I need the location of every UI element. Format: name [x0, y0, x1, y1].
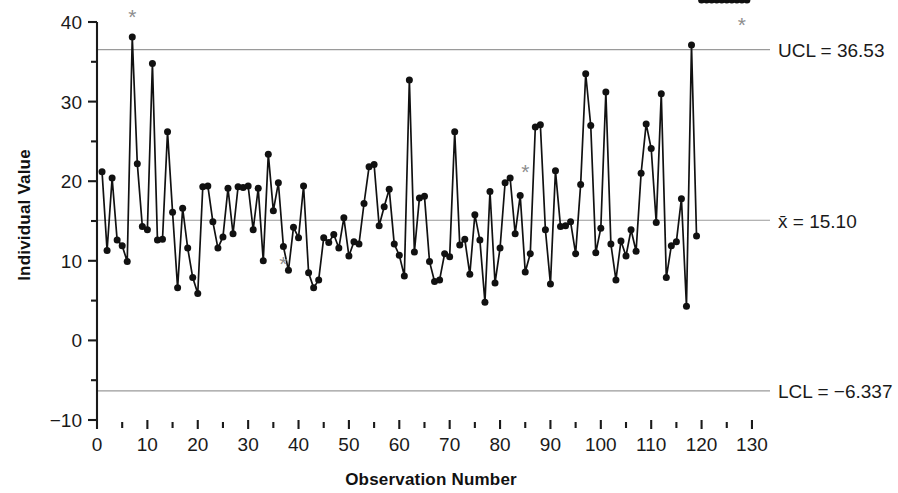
data-point — [446, 253, 453, 260]
x-tick-label: 120 — [686, 434, 718, 455]
data-point — [149, 60, 156, 67]
violation-asterisk: * — [279, 252, 287, 275]
data-point — [159, 236, 166, 243]
data-point — [492, 280, 499, 287]
data-point — [567, 218, 574, 225]
data-point — [290, 224, 297, 231]
data-point — [683, 303, 690, 310]
data-point — [179, 205, 186, 212]
data-point — [295, 234, 302, 241]
data-point — [325, 239, 332, 246]
x-tick-label: 90 — [540, 434, 561, 455]
data-point — [673, 238, 680, 245]
control-chart: 0102030405060708090100110120130 −1001020… — [0, 0, 898, 493]
x-tick-label: 130 — [736, 434, 768, 455]
data-point — [255, 185, 262, 192]
data-point — [214, 245, 221, 252]
lcl-label: LCL = −6.337 — [778, 381, 892, 402]
data-point — [577, 181, 584, 188]
data-point — [643, 120, 650, 127]
data-point — [260, 257, 267, 264]
data-point — [602, 89, 609, 96]
data-point — [401, 272, 408, 279]
data-point — [124, 258, 131, 265]
data-point — [371, 161, 378, 168]
x-axis-tick-labels: 0102030405060708090100110120130 — [92, 434, 768, 455]
data-point — [386, 186, 393, 193]
data-point — [527, 250, 534, 257]
violation-asterisk: * — [738, 13, 746, 36]
data-point — [693, 233, 700, 240]
data-point — [497, 245, 504, 252]
control-limit-labels: UCL = 36.53 x̄ = 15.10 LCL = −6.337 — [778, 40, 892, 402]
x-tick-label: 60 — [389, 434, 410, 455]
data-point — [134, 160, 141, 167]
y-tick-label: −10 — [50, 410, 82, 431]
data-point — [224, 185, 231, 192]
data-point — [466, 271, 473, 278]
data-point — [315, 276, 322, 283]
data-point — [381, 203, 388, 210]
data-point — [537, 121, 544, 128]
data-point — [471, 211, 478, 218]
data-point — [169, 209, 176, 216]
data-point — [658, 90, 665, 97]
violation-asterisk: * — [521, 160, 529, 183]
x-tick-label: 20 — [187, 434, 208, 455]
data-point — [391, 241, 398, 248]
data-point — [104, 247, 111, 254]
x-tick-label: 100 — [585, 434, 617, 455]
data-point — [481, 299, 488, 306]
data-point — [361, 200, 368, 207]
data-point — [396, 252, 403, 259]
violation-asterisk: * — [128, 5, 136, 28]
data-point — [184, 245, 191, 252]
data-point — [99, 168, 106, 175]
data-point — [607, 241, 614, 248]
data-point-markers — [99, 0, 751, 310]
data-point — [189, 274, 196, 281]
data-point — [507, 175, 514, 182]
x-tick-label: 50 — [338, 434, 359, 455]
data-point — [174, 284, 181, 291]
x-tick-label: 10 — [137, 434, 158, 455]
data-point — [638, 170, 645, 177]
data-point — [617, 237, 624, 244]
data-point — [129, 34, 136, 41]
x-axis-title: Observation Number — [345, 470, 517, 489]
data-point — [421, 193, 428, 200]
y-tick-label: 0 — [71, 330, 82, 351]
data-point — [411, 249, 418, 256]
data-point — [219, 233, 226, 240]
data-point — [144, 226, 151, 233]
data-point — [345, 253, 352, 260]
data-point — [335, 245, 342, 252]
data-point — [547, 280, 554, 287]
data-point — [355, 241, 362, 248]
data-point — [330, 231, 337, 238]
control-limit-lines — [97, 50, 770, 391]
y-tick-label: 10 — [61, 251, 82, 272]
data-point — [456, 241, 463, 248]
data-point — [572, 250, 579, 257]
y-tick-label: 30 — [61, 92, 82, 113]
data-point — [265, 151, 272, 158]
data-point — [119, 242, 126, 249]
data-point — [542, 226, 549, 233]
data-point — [633, 248, 640, 255]
chart-axes — [88, 22, 752, 429]
data-point — [109, 175, 116, 182]
data-point — [517, 192, 524, 199]
data-point — [436, 276, 443, 283]
y-axis-title: Individual Value — [15, 149, 34, 281]
data-point — [376, 222, 383, 229]
data-point — [653, 219, 660, 226]
series-polyline — [102, 37, 697, 306]
data-point — [597, 225, 604, 232]
data-point — [587, 122, 594, 129]
data-point — [582, 70, 589, 77]
chart-canvas: 0102030405060708090100110120130 −1001020… — [0, 0, 898, 493]
data-point — [275, 179, 282, 186]
data-point — [623, 253, 630, 260]
data-point — [300, 182, 307, 189]
